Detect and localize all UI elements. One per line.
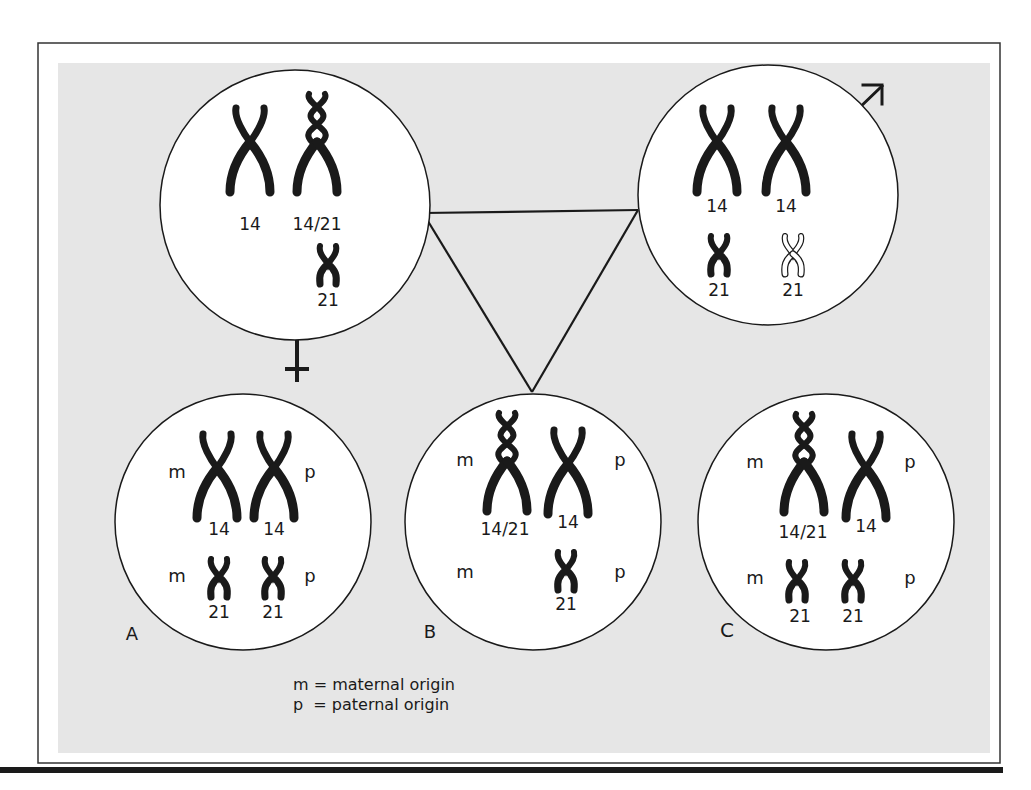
- chromosome-label: 14: [706, 196, 728, 216]
- offspring-id-label: B: [424, 621, 436, 642]
- origin-label: p: [614, 561, 625, 582]
- offspring-cell-c: m p 14/21 14 m p 21 21 C: [698, 394, 954, 650]
- chromosome-label: 14: [208, 519, 230, 539]
- origin-label: m: [168, 461, 186, 482]
- chromosome-label: 21: [317, 290, 339, 310]
- offspring-id-label: A: [126, 623, 139, 644]
- chromosome-label: 21: [262, 602, 284, 622]
- origin-label: p: [304, 565, 315, 586]
- male-parent-cell: 14 14 21 21: [638, 65, 898, 325]
- chromosome-label: 21: [782, 280, 804, 300]
- chromosome-label: 14: [263, 519, 285, 539]
- origin-label: p: [304, 461, 315, 482]
- chromosome-label: 14/21: [481, 519, 530, 539]
- offspring-cell-a: m p 14 14 m p 21 21 A: [115, 394, 371, 650]
- bottom-rule: [0, 767, 1003, 773]
- origin-label: p: [614, 449, 625, 470]
- origin-label: p: [904, 567, 915, 588]
- legend-maternal: m = maternal origin: [293, 675, 455, 694]
- chromosome-label: 14: [239, 214, 261, 234]
- chromosome-label: 21: [842, 606, 864, 626]
- origin-label: m: [168, 565, 186, 586]
- legend: m = maternal origin p = paternal origin: [293, 675, 455, 714]
- origin-label: m: [456, 561, 474, 582]
- chromosome-label: 14/21: [779, 522, 828, 542]
- legend-paternal: p = paternal origin: [293, 695, 449, 714]
- chromosome-label: 21: [789, 606, 811, 626]
- diagram-canvas: 14 14/21 21 14 14 21 21 m p 14 14 m p 21…: [0, 0, 1031, 790]
- origin-label: m: [456, 449, 474, 470]
- chromosome-label: 14/21: [293, 214, 342, 234]
- origin-label: m: [746, 451, 764, 472]
- chromosome-label: 14: [775, 196, 797, 216]
- origin-label: m: [746, 567, 764, 588]
- chromosome-label: 21: [208, 602, 230, 622]
- chromosome-label: 14: [557, 512, 579, 532]
- offspring-cell-b: m p 14/21 14 m p 21 B: [405, 394, 661, 650]
- chromosome-label: 21: [555, 594, 577, 614]
- chromosome-label: 14: [855, 516, 877, 536]
- offspring-id-label: C: [720, 618, 734, 642]
- chromosome-label: 21: [708, 280, 730, 300]
- female-parent-cell: 14 14/21 21: [160, 70, 430, 340]
- origin-label: p: [904, 451, 915, 472]
